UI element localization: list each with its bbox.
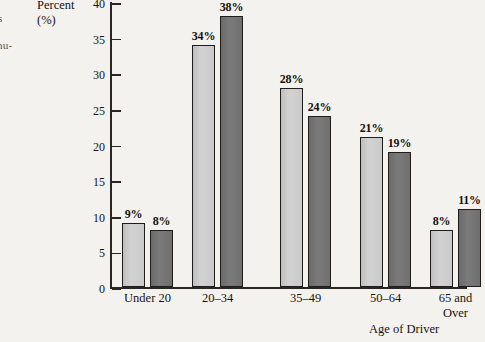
y-axis-title-line1: Percent <box>37 0 74 13</box>
y-axis-title: Percent (%) <box>37 0 74 28</box>
bar: 21% <box>360 137 383 287</box>
x-category-label: 35–49 <box>261 291 351 306</box>
y-tick-label: 15 <box>93 175 105 190</box>
y-tick-label: 20 <box>93 139 105 154</box>
bar-value-label: 28% <box>280 72 303 87</box>
bar-group: 8%11% <box>430 2 481 287</box>
y-tick-label: 5 <box>99 246 105 261</box>
page-margin-fragment-1: s <box>0 12 2 24</box>
bar-value-label: 21% <box>360 121 383 136</box>
bar-value-label: 24% <box>308 100 331 115</box>
bar: 19% <box>388 152 411 287</box>
bar-value-label: 8% <box>153 214 171 229</box>
y-axis-title-line2: (%) <box>37 13 74 28</box>
x-category-label: 65 andOver <box>411 291 485 321</box>
bar: 8% <box>430 230 453 287</box>
bar: 9% <box>122 223 145 287</box>
bar-group: 21%19% <box>360 2 411 287</box>
y-tick-label: 35 <box>93 32 105 47</box>
x-category-label-line: 20–34 <box>173 291 263 306</box>
bar-value-label: 8% <box>433 214 451 229</box>
y-tick-label: 40 <box>93 0 105 12</box>
bar-group: 34%38% <box>192 2 243 287</box>
y-tick-label: 25 <box>93 103 105 118</box>
y-tick-mark <box>112 288 121 290</box>
page-margin-fragment-2: nu- <box>0 39 12 51</box>
bar-value-label: 34% <box>192 29 215 44</box>
x-category-label: 20–34 <box>173 291 263 306</box>
bar: 8% <box>150 230 173 287</box>
x-axis-line <box>110 287 467 289</box>
bar: 28% <box>280 88 303 288</box>
bar-series-container: 9%8%34%38%28%24%21%19%8%11% <box>110 2 467 287</box>
x-axis-title: Age of Driver <box>369 322 439 337</box>
y-tick-label: 30 <box>93 68 105 83</box>
bar-value-label: 19% <box>388 136 411 151</box>
bar: 24% <box>308 116 331 287</box>
bar-value-label: 9% <box>125 207 143 222</box>
x-category-label-line: 65 and <box>411 291 485 306</box>
bar-group: 28%24% <box>280 2 331 287</box>
bar: 11% <box>458 209 481 287</box>
x-category-label-line: 35–49 <box>261 291 351 306</box>
bar: 34% <box>192 45 215 287</box>
bar-group: 9%8% <box>122 2 173 287</box>
bar-value-label: 38% <box>220 0 243 15</box>
bar-value-label: 11% <box>458 193 481 208</box>
x-category-label-line: Over <box>411 306 485 321</box>
bar: 38% <box>220 16 243 287</box>
y-tick-label: 10 <box>93 210 105 225</box>
plot-area: 0510152025303540 9%8%34%38%28%24%21%19%8… <box>110 2 467 289</box>
